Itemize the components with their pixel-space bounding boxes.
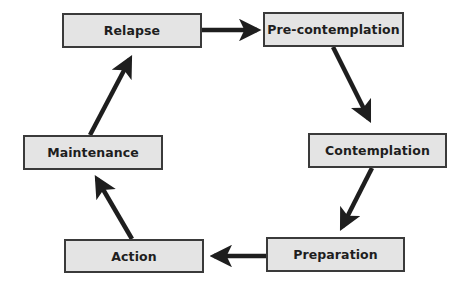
arrow-precontemplation-to-contemplation xyxy=(333,47,369,119)
stage-label: Contemplation xyxy=(325,143,430,158)
stage-label: Preparation xyxy=(293,247,378,262)
stage-label: Relapse xyxy=(104,23,160,38)
stage-box-relapse: Relapse xyxy=(62,13,202,48)
arrow-action-to-maintenance xyxy=(97,179,132,239)
stage-box-maintenance: Maintenance xyxy=(23,135,163,170)
stage-box-action: Action xyxy=(64,239,204,273)
stage-label: Action xyxy=(111,249,156,264)
arrow-maintenance-to-relapse xyxy=(90,59,130,135)
stage-box-contemplation: Contemplation xyxy=(308,133,447,168)
arrow-contemplation-to-preparation xyxy=(342,168,372,227)
stages-of-change-diagram: Relapse Pre-contemplation Contemplation … xyxy=(0,0,470,285)
stage-box-preparation: Preparation xyxy=(266,237,405,272)
stage-label: Pre-contemplation xyxy=(267,22,399,37)
stage-box-precontemplation: Pre-contemplation xyxy=(263,12,404,47)
stage-label: Maintenance xyxy=(47,145,139,160)
